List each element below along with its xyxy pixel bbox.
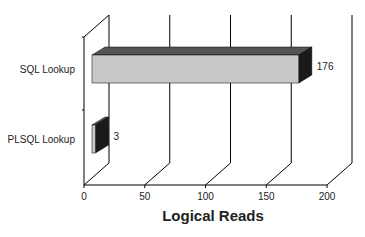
bar-chart: 1763 050100150200 SQL LookupPLSQL Lookup… [0,0,365,237]
category-label: SQL Lookup [20,64,76,75]
chart-grid [82,15,352,188]
x-tick-label: 200 [319,191,336,202]
category-label: PLSQL Lookup [8,134,76,145]
data-label: 176 [317,61,334,72]
x-tick-label: 0 [81,191,87,202]
x-tick-label: 150 [258,191,275,202]
x-tick-label: 50 [139,191,151,202]
bar-plsql-lookup: 3 [92,117,120,153]
y-axis-categories: SQL LookupPLSQL Lookup [8,64,76,145]
chart-bars: 1763 [92,47,334,153]
bar-sql-lookup: 176 [92,47,334,83]
x-axis-ticks: 050100150200 [81,191,336,202]
x-axis-title: Logical Reads [162,207,264,224]
data-label: 3 [114,131,120,142]
x-tick-label: 100 [197,191,214,202]
